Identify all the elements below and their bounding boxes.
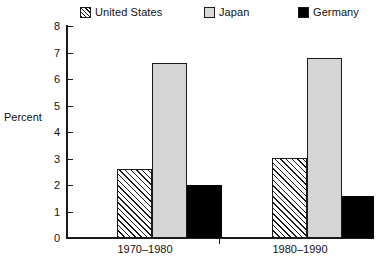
bar-japan-1980-1990 — [307, 58, 342, 238]
bar-series-container — [0, 0, 382, 261]
bar-united-states-1970-1980 — [117, 169, 152, 238]
bar-germany-1980-1990 — [342, 196, 374, 238]
bar-germany-1970-1980 — [187, 185, 222, 238]
bar-united-states-1980-1990 — [272, 158, 307, 238]
x-category-label-1980-1990: 1980–1990 — [240, 243, 360, 255]
x-category-label-1970-1980: 1970–1980 — [85, 243, 205, 255]
bar-japan-1970-1980 — [152, 63, 187, 238]
bar-chart: United States Japan Germany Percent 8 7 … — [0, 0, 382, 261]
